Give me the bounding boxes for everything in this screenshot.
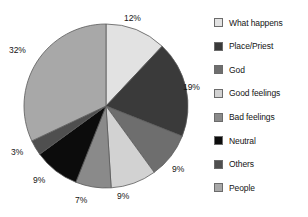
legend-swatch-icon — [214, 89, 223, 98]
chart-legend: What happensPlace/PriestGodGood feelings… — [214, 11, 308, 200]
pie-percent-label: 3% — [11, 148, 23, 157]
legend-item-place-priest[interactable]: Place/Priest — [214, 35, 308, 59]
pie-plot-area: 12%19%9%9%7%9%3%32% — [0, 0, 212, 217]
legend-swatch-icon — [214, 113, 223, 122]
pie-percent-label: 9% — [172, 165, 184, 174]
pie-slice-group — [24, 24, 188, 188]
legend-item-neutral[interactable]: Neutral — [214, 129, 308, 153]
pie-percent-label: 9% — [117, 192, 129, 201]
legend-item-label: Others — [229, 160, 254, 169]
pie-percent-label: 32% — [9, 46, 26, 55]
legend-swatch-icon — [214, 136, 223, 145]
legend-item-what-happens[interactable]: What happens — [214, 11, 308, 35]
legend-item-label: Neutral — [229, 137, 256, 146]
pie-percent-label: 9% — [33, 176, 45, 185]
legend-item-label: People — [229, 184, 255, 193]
legend-swatch-icon — [214, 65, 223, 74]
legend-item-label: Good feelings — [229, 89, 280, 98]
pie-percent-label: 19% — [183, 83, 200, 92]
legend-item-label: What happens — [229, 19, 283, 28]
legend-swatch-icon — [214, 183, 223, 192]
legend-item-bad-feelings[interactable]: Bad feelings — [214, 105, 308, 129]
legend-item-god[interactable]: God — [214, 58, 308, 82]
legend-item-label: God — [229, 66, 245, 75]
legend-item-label: Bad feelings — [229, 113, 275, 122]
legend-item-people[interactable]: People — [214, 176, 308, 200]
pie-chart-figure: 12%19%9%9%7%9%3%32% What happensPlace/Pr… — [0, 0, 308, 217]
legend-swatch-icon — [214, 42, 223, 51]
legend-item-label: Place/Priest — [229, 42, 273, 51]
pie-svg — [0, 0, 212, 217]
legend-item-others[interactable]: Others — [214, 153, 308, 177]
legend-item-good-feelings[interactable]: Good feelings — [214, 82, 308, 106]
pie-percent-label: 12% — [124, 14, 141, 23]
legend-swatch-icon — [214, 18, 223, 27]
pie-percent-label: 7% — [75, 196, 87, 205]
legend-swatch-icon — [214, 160, 223, 169]
